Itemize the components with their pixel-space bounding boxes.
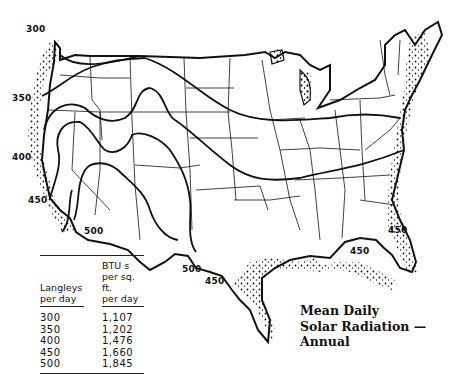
legend-table: Langleys per day BTU s per sq. ft. per d… — [40, 255, 144, 374]
legend-row: 3001,107 — [40, 312, 144, 324]
legend-header-line: per day — [102, 293, 144, 304]
btu-value: 1,476 — [102, 335, 144, 347]
legend-header-langleys: Langleys per day — [40, 282, 84, 307]
legend-top-rule — [40, 255, 144, 256]
legend-header-line: per day — [40, 293, 84, 304]
legend-header-btu: BTU s per sq. ft. per day — [102, 260, 144, 307]
langleys-value: 400 — [40, 335, 84, 347]
isoline-label-450-west: 450 — [28, 195, 47, 205]
isoline-label-500-texas: 500 — [182, 264, 201, 274]
legend-header-line: per sq. ft. — [102, 271, 144, 293]
legend-row: 5001,845 — [40, 358, 144, 370]
isoline-label-450-gulf: 450 — [350, 246, 369, 256]
btu-value: 1,660 — [102, 347, 144, 359]
map-title-line: Solar Radiation — — [300, 319, 426, 335]
langleys-value: 500 — [40, 358, 84, 370]
legend-row: 3501,202 — [40, 324, 144, 336]
state-borders — [48, 40, 400, 240]
map-title-line: Annual — [300, 334, 426, 350]
legend-header-line: Langleys — [40, 282, 84, 293]
legend-row: 4501,660 — [40, 347, 144, 359]
langleys-value: 450 — [40, 347, 84, 359]
map-title: Mean Daily Solar Radiation — Annual — [300, 303, 426, 350]
isoline-label-450-texas: 450 — [205, 276, 224, 286]
langleys-value: 300 — [40, 312, 84, 324]
legend-row: 4001,476 — [40, 335, 144, 347]
isoline-label-350: 350 — [12, 93, 31, 103]
isoline-label-450-florida-east: 450 — [388, 225, 407, 235]
isolines — [42, 55, 404, 252]
btu-value: 1,202 — [102, 324, 144, 336]
isoline-label-300: 300 — [26, 24, 45, 34]
legend-header-line: BTU s — [102, 260, 144, 271]
btu-value: 1,107 — [102, 312, 144, 324]
isoline-label-400: 400 — [12, 152, 31, 162]
legend-bottom-rule — [40, 373, 144, 374]
langleys-value: 350 — [40, 324, 84, 336]
map-title-line: Mean Daily — [300, 303, 426, 319]
btu-value: 1,845 — [102, 358, 144, 370]
isoline-label-500-west: 500 — [84, 226, 103, 236]
